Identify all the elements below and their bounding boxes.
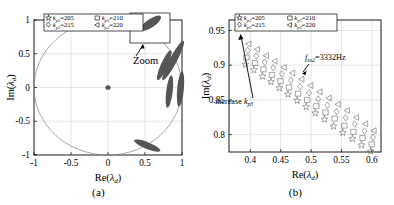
zoom-label: Zoom: [133, 55, 158, 66]
increase-kp3-annotation: increase kp3: [215, 97, 253, 107]
lower-right-arc: [133, 137, 162, 154]
y-tick-label: -0.5: [15, 116, 30, 126]
y-tick-label: 0.9: [213, 60, 225, 70]
panel-b-axes-frame: [229, 20, 381, 152]
y-tick-label: 0.5: [18, 49, 30, 59]
y-tick-label: -1: [22, 150, 30, 160]
x-tick-label: 0.4: [244, 155, 256, 165]
y-tick-label: 1: [25, 15, 30, 25]
panel-a-ylabel: Im(λd): [5, 74, 18, 101]
panel-a-legend: kp3=205kp3=210kp3=215kp3=220: [44, 14, 143, 31]
panel-a-xlabel: Re(λd): [95, 172, 122, 185]
x-tick-label: 0.55: [333, 155, 350, 165]
x-tick-label: 0.5: [305, 155, 317, 165]
increase-arrow-head-icon: [238, 34, 243, 40]
y-tick-label: 0: [25, 83, 30, 93]
panel-b: 0.40.450.50.550.60.950.90.850.8 increase…: [197, 0, 394, 205]
figure-root: -1-0.500.5110.50-0.5-1 Zoom kp3=205kp3=2…: [0, 0, 394, 205]
fso2-arrow-head-icon: [302, 71, 307, 75]
panel-b-gridlines: [229, 20, 381, 152]
x-tick-label: 1: [180, 158, 185, 168]
x-tick-label: 0.45: [273, 155, 290, 165]
panel-b-legend: kp3=205kp3=210kp3=215kp3=220: [235, 14, 337, 31]
y-tick-label: 0.95: [209, 26, 226, 36]
panel-a-axis-labels: Re(λd)Im(λd): [5, 74, 122, 186]
x-tick-label: 0: [106, 158, 111, 168]
x-tick-label: 0.6: [366, 155, 378, 165]
origin-cluster: [105, 85, 110, 90]
panel-b-xlabel: Re(λd): [292, 169, 319, 182]
series-star: [242, 61, 374, 154]
x-tick-label: 0.5: [139, 158, 151, 168]
panel-a: -1-0.500.5110.50-0.5-1 Zoom kp3=205kp3=2…: [0, 0, 197, 205]
panel-b-plot: 0.40.450.50.550.60.950.90.850.8 increase…: [197, 0, 394, 205]
series-square: [244, 55, 374, 147]
y-tick-label: 0.8: [213, 130, 225, 140]
right-arc-outer: [176, 71, 186, 107]
panel-b-caption: (b): [197, 186, 394, 198]
right-arc-inner: [164, 75, 174, 108]
panel-a-plot: -1-0.500.5110.50-0.5-1 Zoom kp3=205kp3=2…: [0, 0, 197, 205]
panel-b-tick-labels: 0.40.450.50.550.60.950.90.850.8: [209, 26, 378, 165]
x-tick-label: -1: [30, 158, 38, 168]
panel-a-caption: (a): [0, 186, 197, 198]
zoom-arrow-icon: Zoom: [133, 44, 158, 66]
x-tick-label: -0.5: [64, 158, 79, 168]
